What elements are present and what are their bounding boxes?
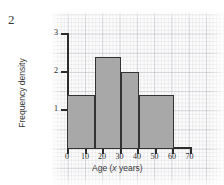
x-tick-label-40: 40 [129,152,145,161]
x-tick-label-20: 20 [94,152,110,161]
x-tick-label-60: 60 [164,152,180,161]
histogram-bar-2 [95,57,121,149]
x-tick-label-70: 70 [182,152,198,161]
y-tick-3 [61,33,68,35]
y-axis-label: Frequency density [17,48,27,138]
x-tick-label-50: 50 [147,152,163,161]
x-tick-label-10: 10 [77,152,93,161]
screenshot-root: 2 3 2 1 0 10 20 30 40 50 60 70 [0,0,224,185]
y-tick-label-1: 1 [44,104,58,113]
histogram-bar-1 [67,95,95,149]
histogram-plot: 3 2 1 0 10 20 30 40 50 60 70 Frequency d… [0,0,224,185]
y-tick-2 [61,71,68,73]
y-tick-label-3: 3 [44,28,58,37]
histogram-bar-3 [121,72,139,149]
x-tick-label-0: 0 [59,152,75,161]
y-tick-label-2: 2 [44,66,58,75]
x-axis-label: Age (x years) [92,163,143,173]
histogram-bar-4 [139,95,174,149]
x-tick-label-30: 30 [112,152,128,161]
